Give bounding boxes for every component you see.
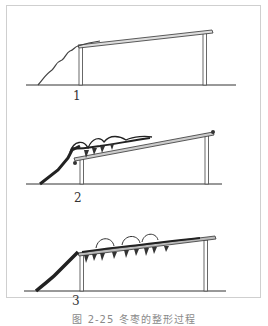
figure-caption: 图 2-25 冬枣的整形过程 — [0, 311, 268, 326]
panel-3-label: 3 — [72, 294, 80, 308]
panel-1-drawing — [26, 30, 236, 85]
panel-2-label: 2 — [74, 191, 82, 205]
panel-2-drawing — [26, 130, 222, 184]
panel-1-label: 1 — [73, 89, 81, 103]
panel-3-drawing — [24, 234, 226, 291]
